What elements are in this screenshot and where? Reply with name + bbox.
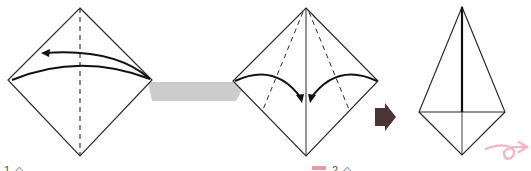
- step-2-diamond: [233, 8, 378, 156]
- continue-arrow-icon: [486, 142, 527, 159]
- diagram-canvas: [0, 0, 531, 171]
- step-3-kite: [419, 7, 505, 155]
- caption-right: 2 ◇ …: [312, 164, 368, 171]
- origami-diagram: 1 ◇ … 2 ◇ …: [0, 0, 531, 171]
- next-step-arrow-icon: [375, 103, 396, 131]
- connector-bar: [148, 82, 246, 101]
- caption-left: 1 ◇ …: [4, 164, 40, 171]
- step-1-diamond: [8, 8, 152, 156]
- caption-right-text: 2 ◇ …: [332, 164, 368, 171]
- caption-marker: [312, 166, 326, 170]
